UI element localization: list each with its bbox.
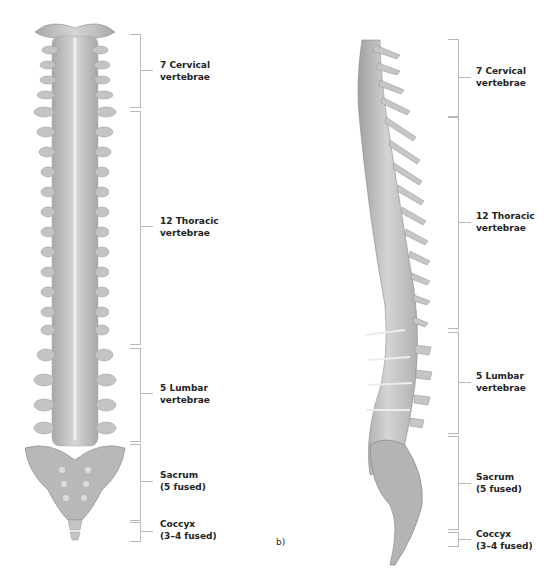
tick-coccyx-a xyxy=(141,531,153,532)
bracket-cervical-a xyxy=(130,34,141,108)
bracket-coccyx-b xyxy=(448,532,459,547)
label-cervical-a: 7 Cervicalvertebrae xyxy=(160,59,210,83)
bracket-thoracic-b xyxy=(448,117,459,329)
bracket-sacrum-b xyxy=(448,436,459,530)
bracket-thoracic-a xyxy=(130,111,141,345)
bracket-sacrum-a xyxy=(130,444,141,521)
spine-posterior-illustration xyxy=(10,20,140,580)
label-lumbar-a: 5 Lumbarvertebrae xyxy=(160,382,210,406)
tick-lumbar-b xyxy=(459,382,471,383)
bracket-lumbar-b xyxy=(448,332,459,434)
label-lumbar-b: 5 Lumbarvertebrae xyxy=(476,370,526,394)
tick-coccyx-b xyxy=(459,539,471,540)
bracket-lumbar-a xyxy=(130,348,141,442)
tick-cervical-b xyxy=(459,77,471,78)
bracket-cervical-b xyxy=(448,39,459,117)
label-coccyx-a: Coccyx(3–4 fused) xyxy=(160,518,217,542)
label-sacrum-a: Sacrum(5 fused) xyxy=(160,469,206,493)
label-sacrum-b: Sacrum(5 fused) xyxy=(476,471,522,495)
label-thoracic-b: 12 Thoracicvertebrae xyxy=(476,210,535,234)
bracket-coccyx-a xyxy=(130,522,141,542)
tick-sacrum-b xyxy=(459,483,471,484)
tick-lumbar-a xyxy=(141,393,153,394)
tick-cervical-a xyxy=(141,70,153,71)
tick-thoracic-a xyxy=(141,226,153,227)
panel-letter-b: b) xyxy=(276,537,285,547)
label-coccyx-b: Coccyx(3–4 fused) xyxy=(476,528,533,552)
label-thoracic-a: 12 Thoracicvertebrae xyxy=(160,215,219,239)
spine-lateral-illustration xyxy=(330,25,460,583)
label-cervical-b: 7 Cervicalvertebrae xyxy=(476,65,526,89)
tick-thoracic-b xyxy=(459,222,471,223)
tick-sacrum-a xyxy=(141,481,153,482)
